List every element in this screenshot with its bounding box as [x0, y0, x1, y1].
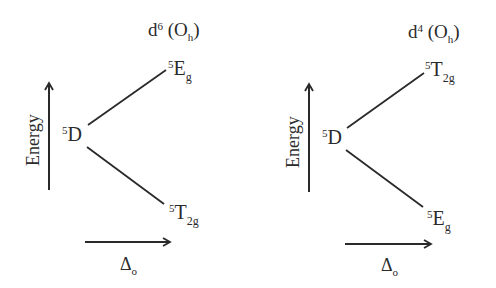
title-sup: 4: [418, 22, 424, 34]
upper-split-line: [347, 73, 424, 128]
lower-term-5T2g: 5T2g: [169, 202, 199, 222]
lower-term-5Eg: 5Eg: [427, 208, 451, 228]
lower-split-line: [87, 147, 164, 204]
term-sup: 5: [168, 58, 174, 70]
center-term-5D: 5D: [62, 124, 82, 144]
lower-split-line: [346, 150, 423, 207]
delta-o-label: Δo: [120, 255, 137, 273]
term-sup: 5: [169, 202, 175, 214]
delta-sub: o: [132, 265, 138, 277]
title-base: d: [408, 21, 418, 42]
delta-base: Δ: [381, 255, 393, 275]
term-sub: g: [186, 70, 192, 84]
diagram-d6-oh: d6 (Oh) Energy 5D 5Eg 5T2g Δo: [0, 0, 248, 288]
delta-base: Δ: [120, 254, 132, 274]
term-base: D: [328, 126, 342, 148]
title-sub: h: [188, 31, 194, 43]
energy-label: Energy: [284, 116, 302, 168]
title-paren-open: (O: [163, 19, 188, 40]
diagram-d4-oh: d4 (Oh) Energy 5D 5T2g 5Eg Δo: [260, 0, 496, 288]
term-base: T: [175, 201, 187, 223]
title-paren-close: ): [193, 19, 199, 40]
upper-term-5Eg: 5Eg: [168, 58, 192, 78]
center-term-5D: 5D: [322, 127, 342, 147]
title-paren-close: ): [453, 21, 459, 42]
upper-term-5T2g: 5T2g: [425, 59, 455, 79]
title-sub: h: [448, 33, 454, 45]
diagram-title: d6 (Oh): [148, 20, 200, 39]
term-base: T: [431, 58, 443, 80]
term-sub: 2g: [187, 214, 199, 228]
term-sup: 5: [322, 127, 328, 139]
term-sub: 2g: [443, 71, 455, 85]
delta-sub: o: [393, 266, 399, 278]
energy-label: Energy: [24, 114, 42, 166]
title-base: d: [148, 19, 158, 40]
upper-split-line: [88, 70, 166, 125]
title-sup: 6: [158, 20, 164, 32]
term-sub: g: [445, 220, 451, 234]
delta-o-label: Δo: [381, 256, 398, 274]
diagram-title: d4 (Oh): [408, 22, 460, 41]
term-base: E: [433, 207, 445, 229]
term-base: E: [174, 57, 186, 79]
title-paren-open: (O: [423, 21, 448, 42]
term-sup: 5: [427, 208, 433, 220]
term-sup: 5: [62, 124, 68, 136]
term-sup: 5: [425, 59, 431, 71]
term-base: D: [68, 123, 82, 145]
